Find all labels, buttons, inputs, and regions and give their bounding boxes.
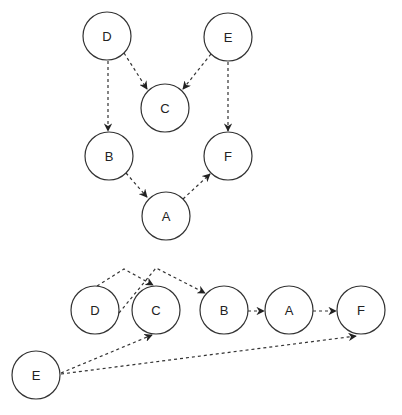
node-label: A bbox=[162, 209, 171, 224]
node-bottom-d: D bbox=[71, 286, 119, 334]
node-top-a: A bbox=[142, 192, 190, 240]
top-graph-nodes: D E C B F A bbox=[83, 12, 252, 240]
node-top-b: B bbox=[85, 132, 133, 180]
node-label: B bbox=[105, 149, 114, 164]
node-label: C bbox=[160, 101, 169, 116]
node-label: B bbox=[220, 303, 229, 318]
edge-top-a-to-f bbox=[183, 174, 210, 199]
edge-top-b-to-a bbox=[126, 173, 147, 197]
node-bottom-e: E bbox=[12, 351, 60, 399]
node-label: A bbox=[285, 303, 294, 318]
bottom-graph-nodes: D C B A F E bbox=[12, 286, 385, 399]
node-label: F bbox=[224, 149, 232, 164]
node-label: F bbox=[357, 303, 365, 318]
node-label: D bbox=[90, 303, 99, 318]
edge-top-e-to-c bbox=[183, 54, 211, 89]
node-bottom-c: C bbox=[132, 286, 180, 334]
diagram-canvas: D E C B F A bbox=[0, 0, 402, 415]
node-top-d: D bbox=[83, 12, 131, 60]
node-top-f: F bbox=[204, 132, 252, 180]
node-label: E bbox=[32, 368, 41, 383]
node-top-e: E bbox=[204, 13, 252, 61]
edge-bottom-e-to-f bbox=[61, 336, 356, 374]
edge-bottom-e-to-c bbox=[61, 335, 152, 373]
edge-bottom-d-to-c bbox=[97, 269, 153, 286]
node-bottom-b: B bbox=[200, 286, 248, 334]
node-label: C bbox=[151, 303, 160, 318]
node-label: D bbox=[102, 29, 111, 44]
node-bottom-f: F bbox=[337, 286, 385, 334]
edge-top-d-to-c bbox=[124, 53, 147, 89]
node-label: E bbox=[224, 30, 233, 45]
node-top-c: C bbox=[141, 84, 189, 132]
node-bottom-a: A bbox=[265, 286, 313, 334]
